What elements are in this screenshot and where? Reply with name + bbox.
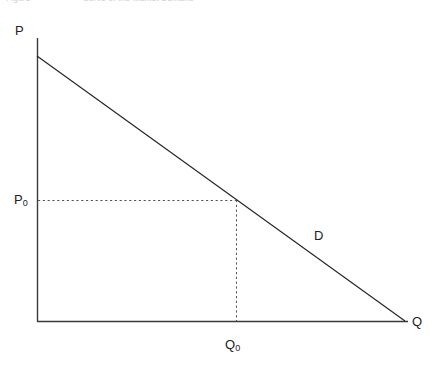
quantity-level-letter: Q — [225, 337, 235, 352]
figure-canvas: Figure Curve of the Market Demand P P0 Q… — [0, 0, 440, 372]
demand-curve-line — [37, 56, 405, 321]
demand-curve-label: D — [314, 229, 323, 242]
price-level-letter: P — [14, 192, 23, 207]
quantity-level-label: Q0 — [225, 338, 240, 351]
price-axis-label: P — [15, 24, 24, 37]
demand-curve-plot — [0, 0, 440, 372]
price-level-label: P0 — [14, 193, 28, 206]
price-level-subscript: 0 — [23, 198, 28, 208]
quantity-level-subscript: 0 — [235, 343, 240, 353]
quantity-axis-label: Q — [412, 315, 422, 328]
